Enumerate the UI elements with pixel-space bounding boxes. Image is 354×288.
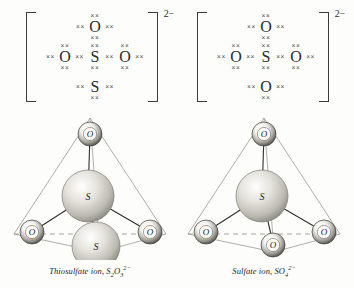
atom-label: S xyxy=(86,191,91,202)
caption-name: Sulfate ion, xyxy=(232,266,272,276)
atom-symbol: O xyxy=(59,49,71,65)
lewis-atom-grid: ×× ×× ×× ×× O ×× ×× ×× ×× O ×× ×× ×× S ×… xyxy=(207,12,325,102)
atom-symbol: O xyxy=(89,19,101,35)
vertex-atom-front-bottom: O xyxy=(261,233,285,257)
thiosulfate-ball-and-stick-model: O S O O S xyxy=(4,112,176,260)
sulfate-lewis-structure: 2− ×× ×× ×× ×× O ×× ×× ×× ×× O ×× ×× ×× … xyxy=(193,8,343,106)
atom-label: S xyxy=(94,241,99,252)
left-bracket xyxy=(26,12,36,102)
electron-pair-dots: ×× xyxy=(135,54,144,61)
electron-pair-dots: ×× xyxy=(121,65,130,72)
vertex-atom-right: O xyxy=(312,220,336,244)
electron-pair-dots: ×× xyxy=(247,84,256,91)
atom-symbol: O xyxy=(119,49,131,65)
electron-pair-dots: ×× xyxy=(76,84,85,91)
lewis-atom-grid: ×× ×× ×× ×× O ×× ×× ×× ×× O ×× ×× ×× S ×… xyxy=(36,12,154,102)
formula-charge: 2− xyxy=(123,264,130,271)
electron-pair-dots: ×× xyxy=(247,24,256,31)
atom-symbol: O xyxy=(230,49,242,65)
atom-label: O xyxy=(147,227,154,237)
electron-pair-dots: ×× xyxy=(276,84,285,91)
electron-pair-dots: ×× xyxy=(292,65,301,72)
atom-label: O xyxy=(321,227,328,237)
atom-symbol: O xyxy=(260,79,272,95)
center-atom: S xyxy=(236,170,288,222)
lewis-atom-middle-right: ×× ×× ×× O xyxy=(276,42,316,72)
electron-pair-dots: ×× xyxy=(61,65,70,72)
thiosulfate-lewis-structure: 2− ×× ×× ×× ×× O ×× ×× ×× ×× O ×× ×× ×× … xyxy=(22,8,172,106)
electron-pair-dots: ×× xyxy=(217,54,226,61)
electron-pair-dots: ×× xyxy=(91,35,100,42)
caption-formula: SO42− xyxy=(274,266,295,276)
electron-pair-dots: ×× xyxy=(91,95,100,102)
charge-label: 2− xyxy=(164,8,174,19)
lewis-atom-top: ×× ×× ×× ×× O xyxy=(75,12,115,42)
electron-pair-dots: ×× xyxy=(105,24,114,31)
atom-label: O xyxy=(203,227,210,237)
vertex-atom-front-bottom: S xyxy=(72,222,120,260)
lewis-atom-bottom: ×× ×× ×× S xyxy=(75,72,115,102)
atom-symbol: O xyxy=(290,49,302,65)
electron-pair-dots: ×× xyxy=(105,84,114,91)
vertex-atom-top: O xyxy=(78,122,102,146)
bonding-pair-dots: ×× xyxy=(91,65,100,72)
vertex-atom-left: O xyxy=(194,220,218,244)
atom-label: O xyxy=(87,129,94,139)
atom-symbol: S xyxy=(91,79,100,95)
formula-element: SO xyxy=(274,266,285,276)
center-atom: S xyxy=(62,170,114,222)
vertex-atom-top: O xyxy=(252,122,276,146)
electron-pair-dots: ×× xyxy=(262,95,271,102)
lewis-atom-middle-right: ×× ×× ×× O xyxy=(105,42,145,72)
formula-subscript: 4 xyxy=(285,271,288,278)
sulfate-ball-and-stick-model: O S O O O xyxy=(178,112,350,260)
electron-pair-dots: ×× xyxy=(276,24,285,31)
electron-pair-dots: ×× xyxy=(76,24,85,31)
sulfate-svg: O S O O O xyxy=(178,112,350,260)
formula-subscript: 3 xyxy=(120,271,123,278)
left-bracket xyxy=(197,12,207,102)
lewis-atom-bottom: ×× ×× ×× O xyxy=(246,72,286,102)
atom-label: O xyxy=(29,227,36,237)
electron-pair-dots: ×× xyxy=(262,35,271,42)
lewis-atom-top: ×× ×× ×× ×× O xyxy=(246,12,286,42)
figure-root: 2− ×× ×× ×× ×× O ×× ×× ×× ×× O ×× ×× ×× … xyxy=(0,0,354,288)
formula-charge: 2− xyxy=(288,264,295,271)
sulfate-caption: Sulfate ion, SO42− xyxy=(178,264,350,278)
charge-label: 2− xyxy=(335,8,345,19)
caption-formula: S2O32− xyxy=(106,266,131,276)
atom-label: O xyxy=(261,129,268,139)
atom-label: S xyxy=(260,191,265,202)
electron-pair-dots: ×× xyxy=(232,65,241,72)
atom-symbol: O xyxy=(260,19,272,35)
thiosulfate-caption: Thiosulfate ion, S2O32− xyxy=(4,264,176,278)
atom-symbol: S xyxy=(91,49,100,65)
atom-symbol: S xyxy=(262,49,271,65)
vertex-atom-left: O xyxy=(20,220,44,244)
vertex-atom-right: O xyxy=(138,220,162,244)
electron-pair-dots: ×× xyxy=(46,54,55,61)
bonding-pair-dots: ×× xyxy=(262,65,271,72)
caption-name: Thiosulfate ion, xyxy=(49,266,104,276)
thiosulfate-svg: O S O O S xyxy=(4,112,176,260)
electron-pair-dots: ×× xyxy=(306,54,315,61)
atom-label: O xyxy=(270,240,277,250)
